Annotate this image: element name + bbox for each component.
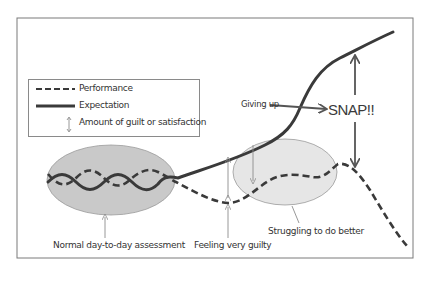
normal-assessment-label: Normal day-to-day assessment (53, 240, 185, 250)
solid-line-icon (33, 98, 79, 114)
legend-label: Performance (79, 83, 133, 93)
legend-label: Expectation (79, 100, 129, 110)
diagram-frame (17, 18, 413, 258)
snap-label: SNAP!! (328, 101, 374, 118)
legend-item-expectation: Expectation (29, 98, 199, 114)
feeling-guilty-label: Feeling very guilty (194, 240, 271, 250)
double-arrow-icon (33, 115, 79, 135)
legend-item-performance: Performance (29, 81, 199, 97)
normal-assessment-oval (47, 145, 175, 215)
legend: Performance Expectation Amount of guilt … (28, 79, 200, 137)
legend-label: Amount of guilt or satisfaction (79, 117, 206, 127)
dashed-line-icon (33, 81, 79, 97)
giving-up-label: Giving up (241, 99, 279, 109)
legend-item-guilt-satisfaction: Amount of guilt or satisfaction (29, 115, 199, 131)
struggling-label: Struggling to do better (268, 226, 364, 236)
